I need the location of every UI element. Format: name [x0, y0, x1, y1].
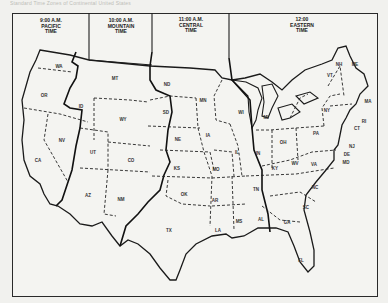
state-label-nc: NC [312, 185, 319, 190]
state-label-ok: OK [181, 192, 188, 197]
state-label-va: VA [311, 162, 317, 167]
state-label-nj: NJ [349, 144, 355, 149]
state-label-wv: WV [291, 161, 298, 166]
zone-suffix: TIME [155, 28, 227, 34]
state-label-tx: TX [166, 228, 172, 233]
state-label-co: CO [128, 158, 135, 163]
state-label-ne: NE [175, 137, 181, 142]
state-label-az: AZ [85, 193, 91, 198]
state-label-in: IN [256, 151, 261, 156]
state-label-fl: FL [298, 258, 304, 263]
state-label-oh: OH [280, 140, 287, 145]
state-label-wi: WI [238, 110, 244, 115]
state-label-ri: RI [362, 119, 367, 124]
us-time-zone-map [0, 0, 388, 303]
state-label-al: AL [258, 217, 264, 222]
zone-suffix: TIME [91, 29, 151, 35]
state-label-sc: SC [303, 205, 309, 210]
state-label-nh: NH [336, 62, 343, 67]
state-label-ca: CA [35, 158, 42, 163]
state-label-ky: KY [272, 166, 278, 171]
state-label-sd: SD [163, 110, 169, 115]
state-label-me: ME [352, 62, 359, 67]
state-label-mi: MI [264, 115, 269, 120]
zone-suffix: TIME [22, 29, 80, 35]
zone-label-eastern: 12:00 EASTERN TIME [262, 17, 342, 34]
state-label-nv: NV [59, 138, 65, 143]
great-lakes [232, 80, 318, 128]
state-label-ct: CT [354, 126, 360, 131]
state-label-id: ID [79, 104, 84, 109]
state-label-ga: GA [284, 220, 291, 225]
state-label-tn: TN [253, 187, 259, 192]
state-label-nm: NM [118, 197, 125, 202]
state-label-ar: AR [212, 198, 219, 203]
state-label-vt: VT [327, 73, 333, 78]
state-label-ma: MA [365, 99, 372, 104]
state-label-mn: MN [200, 98, 207, 103]
state-label-md: MD [343, 160, 350, 165]
state-label-mo: MO [212, 167, 219, 172]
state-label-wy: WY [119, 117, 126, 122]
state-label-ks: KS [174, 166, 180, 171]
zone-label-central: 11:00 A.M. CENTRAL TIME [155, 17, 227, 34]
state-label-la: LA [215, 228, 221, 233]
state-label-wa: WA [55, 64, 62, 69]
zone-label-mountain: 10:00 A.M. MOUNTAIN TIME [91, 18, 151, 35]
zone-suffix: TIME [262, 28, 342, 34]
state-label-il: IL [235, 150, 239, 155]
state-label-ia: IA [206, 133, 211, 138]
state-label-ut: UT [90, 150, 96, 155]
state-label-pa: PA [313, 131, 319, 136]
state-label-de: DE [344, 152, 350, 157]
state-label-ms: MS [236, 219, 243, 224]
zone-label-pacific: 9:00 A.M. PACIFIC TIME [22, 18, 80, 35]
state-label-nd: ND [164, 82, 171, 87]
state-label-ny: NY [324, 108, 330, 113]
state-label-mt: MT [112, 76, 119, 81]
state-label-or: OR [41, 93, 48, 98]
